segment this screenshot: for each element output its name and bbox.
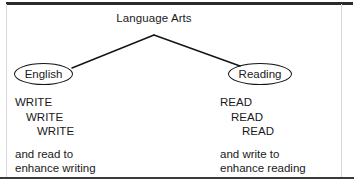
english-tail-line: and read to [15,147,96,162]
reading-emphasis-line: READ [231,110,306,125]
reading-emphasis-line: READ [242,124,306,139]
english-text-column: WRITE WRITE WRITE and read to enhance wr… [15,95,96,176]
english-emphasis-line: WRITE [37,124,96,139]
language-arts-diagram: Language Arts English Reading WRITE WRIT… [0,0,354,185]
english-tail-text: and read to enhance writing [15,147,96,176]
english-emphasis-line: WRITE [15,95,96,110]
node-english: English [14,63,73,85]
left-rule [6,4,7,178]
reading-text-column: READ READ READ and write to enhance read… [220,95,306,176]
right-rule [341,4,342,178]
english-tail-line: enhance writing [15,161,96,176]
reading-emphasis-line: READ [220,95,306,110]
bottom-rule [0,177,354,179]
top-rule [6,2,353,5]
english-emphasis-line: WRITE [26,110,96,125]
reading-tail-line: and write to [220,147,306,162]
node-reading-label: Reading [239,68,282,80]
reading-tail-line: enhance reading [220,161,306,176]
node-english-label: English [25,68,63,80]
root-node-label: Language Arts [0,12,308,24]
reading-tail-text: and write to enhance reading [220,147,306,176]
node-reading: Reading [228,63,292,85]
